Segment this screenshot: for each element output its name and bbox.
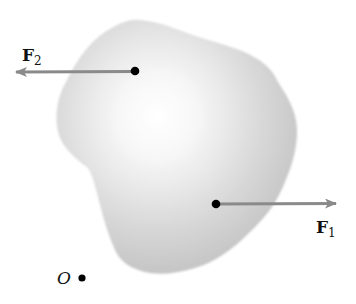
origin-label: O — [57, 268, 71, 288]
force-f2-application-point — [131, 67, 140, 76]
diagram-canvas: F2 F1 O — [0, 0, 356, 304]
rigid-body — [56, 20, 297, 274]
force-f1-application-point — [212, 200, 221, 209]
force-f1-label: F1 — [316, 217, 336, 240]
origin-point — [78, 274, 85, 281]
force-f2-label: F2 — [22, 45, 42, 68]
force-f2-arrow — [16, 72, 135, 73]
force-diagram: F2 F1 O — [0, 0, 356, 304]
force-f1-arrow — [216, 204, 336, 205]
